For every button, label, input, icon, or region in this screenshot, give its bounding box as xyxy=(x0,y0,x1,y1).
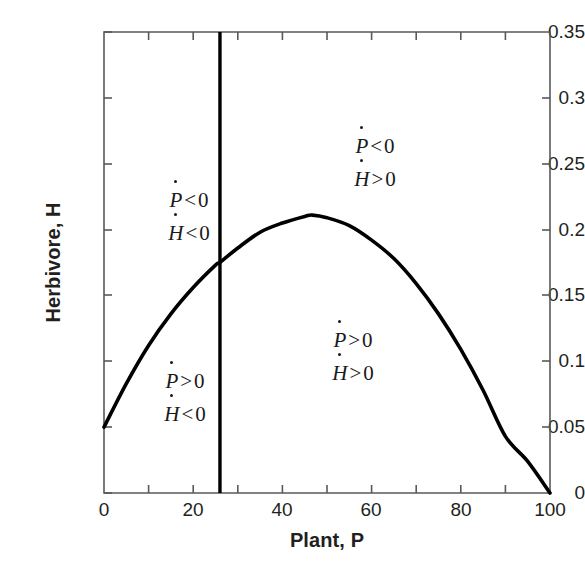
region-upper-right-line1: P<0 xyxy=(320,130,430,163)
plot-canvas xyxy=(0,0,585,573)
region-lower-left-line2: H<0 xyxy=(130,398,240,431)
region-label-lower-left: P>0 H<0 xyxy=(130,365,240,430)
region-lower-center-line1: P>0 xyxy=(298,324,408,357)
region-label-upper-right: P<0 H>0 xyxy=(320,130,430,195)
region-lower-left-line1: P>0 xyxy=(130,365,240,398)
y-axis-ticks-right xyxy=(542,98,550,427)
phase-plane-figure: Herbivore, H Plant, P 0.35 0.3 0.25 0.2 … xyxy=(0,0,585,573)
x-axis-ticks-top xyxy=(149,32,506,40)
region-upper-right-line2: H>0 xyxy=(320,163,430,196)
region-upper-left-line1: P<0 xyxy=(134,184,244,217)
region-label-upper-left: P<0 H<0 xyxy=(134,184,244,249)
region-upper-left-line2: H<0 xyxy=(134,217,244,250)
x-axis-ticks xyxy=(149,485,506,493)
region-lower-center-line2: H>0 xyxy=(298,357,408,390)
region-label-lower-center: P>0 H>0 xyxy=(298,324,408,389)
